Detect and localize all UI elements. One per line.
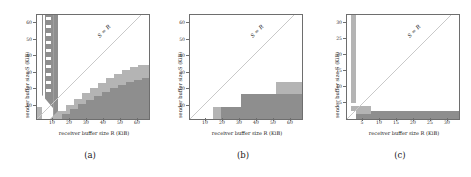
panel-c-xtick-label: 15 [393, 120, 399, 125]
panel-b-ytick-label: 40 [175, 53, 185, 58]
panel-c-xtick-label: 25 [427, 120, 433, 125]
panel-b-ytick-label: 10 [175, 103, 185, 108]
panel-b-xtick-label: 40 [253, 120, 259, 125]
panel-c-xlabel: receiver buffer size R (KiB) [369, 130, 439, 136]
panel-c-diagonal-line [347, 15, 459, 119]
panel-b-plot-area [189, 14, 303, 120]
panel-c-xtick-label: 10 [376, 120, 382, 125]
panel-a-xtick-label: 50 [117, 120, 123, 125]
panel-c-caption: (c) [394, 150, 405, 160]
panel-b-ytick-label: 20 [175, 86, 185, 91]
panel-a-ytick-label: 10 [22, 103, 32, 108]
panel-a: sender buffer size S (KiB) [0, 0, 157, 177]
panel-a-plot-area [36, 14, 150, 120]
panel-a-xtick-label: 30 [83, 120, 89, 125]
panel-a-xlabel: receiver buffer size R (KiB) [59, 130, 129, 136]
panel-c-ytick-label: 5 [332, 100, 342, 105]
panel-c-ytick-label: 20 [332, 52, 342, 57]
panel-c-xtick-label: 20 [410, 120, 416, 125]
panel-a-ytick-label: 40 [22, 53, 32, 58]
panel-a-xtick-label: 10 [49, 120, 55, 125]
panel-b-xtick-label: 20 [219, 120, 225, 125]
panel-b-ytick-label: 50 [175, 37, 185, 42]
panel-b-ytick-label: 60 [175, 20, 185, 25]
panel-a-xtick-label: 20 [66, 120, 72, 125]
panel-c-step-regions [347, 15, 459, 119]
panel-b-ytick-label: 30 [175, 70, 185, 75]
panel-c-ytick-label: 15 [332, 68, 342, 73]
panel-a-xtick-label: 40 [100, 120, 106, 125]
panel-b-diagonal-line [190, 15, 302, 119]
panel-c-vertical-band [351, 15, 356, 111]
panel-b-xtick-label: 60 [287, 120, 293, 125]
panel-c-plot-area [346, 14, 460, 120]
panel-c-ytick-label: 10 [332, 84, 342, 89]
panel-a-ytick-label: 50 [22, 37, 32, 42]
panel-c-ytick-label: 25 [332, 36, 342, 41]
panel-b-xtick-label: 30 [236, 120, 242, 125]
panel-a-dash-column [42, 15, 58, 119]
panel-c: sender buffer size S (KiB) S = R [314, 0, 471, 177]
panel-a-origin-notch [37, 107, 42, 119]
panel-c-xtick-label: 30 [444, 120, 450, 125]
panel-c-vertical-band-gap [351, 103, 356, 106]
panel-b-caption: (b) [237, 150, 249, 160]
figure-three-panel-heatmaps: sender buffer size S (KiB) [0, 0, 471, 177]
panel-a-ytick-label: 60 [22, 20, 32, 25]
panel-b-xtick-label: 10 [202, 120, 208, 125]
panel-c-xtick-label: 5 [361, 120, 364, 125]
panel-b-xtick-label: 50 [270, 120, 276, 125]
panel-a-ytick-label: 20 [22, 86, 32, 91]
panel-b-xlabel: receiver buffer size R (KiB) [212, 130, 282, 136]
panel-c-ytick-label: 30 [332, 20, 342, 25]
panel-b: sender buffer size S (KiB) S = R 10 [157, 0, 314, 177]
panel-a-caption: (a) [84, 150, 96, 160]
panel-a-ytick-label: 30 [22, 70, 32, 75]
panel-b-step-regions [190, 15, 302, 119]
panel-a-xtick-label: 60 [134, 120, 140, 125]
